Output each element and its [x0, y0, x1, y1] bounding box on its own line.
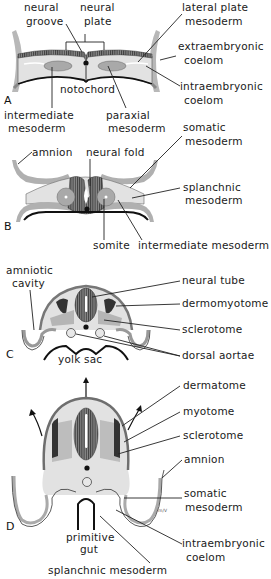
label-dorsal-aortae: dorsal aortae — [182, 349, 254, 361]
artist-signature: m/V — [158, 508, 168, 513]
label-intermediate-b: intermediate mesoderm — [138, 239, 269, 251]
label-splanchnic-b-2: mesoderm — [185, 194, 243, 206]
label-somatic-d-2: mesoderm — [185, 501, 243, 513]
label-notochord: notochord — [60, 83, 115, 95]
label-somatic-b-1: somatic — [183, 121, 226, 133]
label-somatic-b-2: mesoderm — [185, 135, 243, 147]
label-paraxial-1: paraxial — [106, 109, 150, 121]
label-intermediate-2: mesoderm — [8, 122, 66, 134]
label-intermediate-1: intermediate — [4, 109, 74, 121]
label-intraembryonic-2: coelom — [184, 94, 223, 106]
label-amnion-d: amnion — [184, 453, 225, 465]
label-myotome: myotome — [183, 405, 235, 417]
label-lateral-plate-2: mesoderm — [185, 15, 243, 27]
label-dermatome: dermatome — [183, 379, 246, 391]
label-primitive-gut-1: primitive — [66, 531, 115, 543]
label-amniotic-2: cavity — [12, 277, 45, 289]
label-intraembryonic-d-1: intraembryonic — [182, 537, 265, 549]
panel-letter-c: C — [6, 348, 14, 361]
label-somatic-d-1: somatic — [184, 487, 227, 499]
label-yolk-sac: yolk sac — [58, 353, 102, 365]
label-sclerotome-d: sclerotome — [183, 429, 243, 441]
label-splanchnic-b-1: splanchnic — [183, 181, 241, 193]
label-extraembryonic-1: extraembryonic — [178, 40, 264, 52]
label-lateral-plate-1: lateral plate — [182, 1, 248, 13]
label-neural-fold: neural fold — [86, 146, 145, 158]
label-neural-plate-2: plate — [84, 15, 112, 27]
label-splanchnic-d: splanchnic mesoderm — [48, 564, 167, 576]
label-neural-groove-2: groove — [26, 15, 63, 27]
label-neural-groove-1: neural — [24, 1, 59, 13]
embryo-mesoderm-diagram: neural groove neural plate lateral plate… — [0, 0, 271, 579]
label-neural-plate-1: neural — [80, 1, 115, 13]
panel-b: amnion neural fold somatic mesoderm spla… — [4, 121, 269, 251]
label-intraembryonic-1: intraembryonic — [180, 80, 263, 92]
label-intraembryonic-d-2: coelom — [186, 551, 225, 563]
label-somite: somite — [93, 239, 130, 251]
label-extraembryonic-2: coelom — [184, 54, 223, 66]
label-amnion-b: amnion — [32, 146, 73, 158]
label-dermomyotome: dermomyotome — [182, 297, 268, 309]
panel-c: amniotic cavity neural tube dermomyotome… — [6, 264, 268, 365]
label-neural-tube: neural tube — [182, 274, 245, 286]
label-primitive-gut-2: gut — [80, 543, 98, 555]
panel-letter-d: D — [6, 520, 14, 533]
label-amniotic-1: amniotic — [6, 264, 53, 276]
label-paraxial-2: mesoderm — [108, 122, 166, 134]
label-sclerotome-c: sclerotome — [182, 323, 242, 335]
panel-letter-a: A — [4, 94, 12, 107]
panel-letter-b: B — [4, 220, 12, 233]
panel-d: dermatome myotome sclerotome amnion soma… — [6, 377, 265, 576]
panel-a: neural groove neural plate lateral plate… — [4, 1, 264, 134]
